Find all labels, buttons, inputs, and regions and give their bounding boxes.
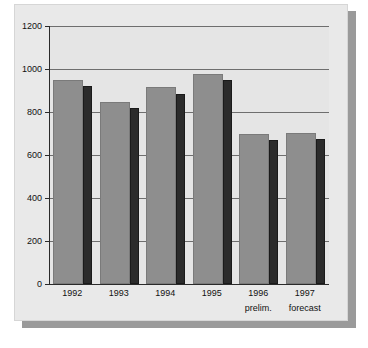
y-tick-mark: [45, 284, 50, 285]
x-label-1992: 1992: [49, 287, 96, 300]
y-tick-label: 800: [27, 107, 42, 117]
bar-group-1993: [97, 26, 144, 284]
bar-group-1992: [50, 26, 97, 284]
bar-primary-1997: [286, 133, 316, 284]
y-tick-label: 400: [27, 193, 42, 203]
bar-group-1996: [236, 26, 283, 284]
bar-group-1997: [283, 26, 330, 284]
x-axis-labels: 19921993199419951996prelim.1997forecast: [49, 287, 328, 321]
x-label-1995: 1995: [189, 287, 236, 300]
bar-group-1994: [143, 26, 190, 284]
bar-secondary-1996: [269, 140, 278, 284]
y-tick-label: 1200: [22, 21, 42, 31]
x-label-year: 1993: [109, 288, 129, 298]
x-label-year: 1997: [295, 288, 315, 298]
bar-secondary-1994: [176, 94, 185, 284]
bar-secondary-1993: [130, 108, 139, 284]
x-label-note: forecast: [282, 302, 329, 315]
x-label-note: prelim.: [235, 302, 282, 315]
x-label-year: 1995: [202, 288, 222, 298]
bar-primary-1993: [100, 102, 130, 284]
bar-secondary-1992: [83, 86, 92, 284]
x-label-1993: 1993: [96, 287, 143, 300]
y-tick-label: 600: [27, 150, 42, 160]
x-label-year: 1996: [248, 288, 268, 298]
bar-primary-1994: [146, 87, 176, 284]
plot-area: 020040060080010001200: [49, 26, 329, 285]
bar-group-1995: [190, 26, 237, 284]
chart-figure: 020040060080010001200 199219931994199519…: [0, 0, 368, 348]
x-label-year: 1994: [155, 288, 175, 298]
x-label-1996: 1996prelim.: [235, 287, 282, 315]
chart-panel: 020040060080010001200 199219931994199519…: [14, 4, 348, 321]
y-tick-label: 1000: [22, 64, 42, 74]
x-label-year: 1992: [62, 288, 82, 298]
x-label-1994: 1994: [142, 287, 189, 300]
bars-layer: [50, 26, 329, 284]
x-label-1997: 1997forecast: [282, 287, 329, 315]
y-tick-label: 200: [27, 236, 42, 246]
bar-primary-1996: [239, 134, 269, 285]
bar-secondary-1997: [316, 139, 325, 284]
bar-secondary-1995: [223, 80, 232, 284]
bar-primary-1995: [193, 74, 223, 284]
bar-primary-1992: [53, 80, 83, 284]
plot-wrapper: 020040060080010001200 199219931994199519…: [15, 5, 349, 322]
y-tick-label: 0: [37, 279, 42, 289]
